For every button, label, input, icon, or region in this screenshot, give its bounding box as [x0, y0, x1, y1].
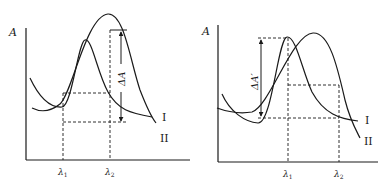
dual-wavelength-diagram: A ΔA I II λ1 λ2 A	[0, 0, 391, 189]
left-curve-I-label: I	[162, 111, 166, 124]
right-panel: A ΔA′ I II λ1 λ2	[201, 25, 378, 180]
left-panel: A ΔA I II λ1 λ2	[8, 14, 190, 178]
right-curve-I-label: I	[365, 114, 369, 127]
left-curve-II-label: II	[160, 132, 169, 145]
left-y-axis-label: A	[8, 26, 17, 39]
right-tick-lambda1: λ1	[282, 169, 293, 180]
right-curve-I	[222, 37, 358, 123]
right-tick-lambda2: λ2	[333, 169, 344, 180]
right-delta-label: ΔA′	[249, 73, 260, 91]
left-delta-label: ΔA	[116, 72, 127, 87]
left-tick-lambda1: λ1	[57, 167, 68, 178]
right-curve-II-label: II	[364, 135, 373, 148]
left-tick-lambda2: λ2	[104, 167, 115, 178]
left-curve-I	[30, 40, 152, 117]
right-y-axis-label: A	[201, 25, 210, 38]
left-curve-II	[32, 14, 156, 123]
